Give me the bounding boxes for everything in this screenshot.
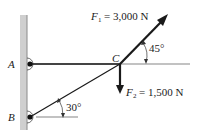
label-angle-45: 45° — [149, 42, 164, 54]
label-angle-30: 30° — [66, 101, 81, 113]
statics-diagram: A B C F 1 = 3,000 N 45° F 2 = 1,500 N 30… — [0, 0, 198, 137]
label-F2-value: = 1,500 N — [139, 86, 183, 98]
label-F2-subscript: 2 — [133, 92, 137, 100]
angle-arc-45 — [141, 40, 148, 64]
label-F1-subscript: 1 — [98, 16, 102, 24]
pin-A — [27, 58, 33, 70]
label-A: A — [7, 58, 15, 70]
label-B: B — [8, 111, 15, 123]
pin-B — [27, 111, 33, 123]
wall — [20, 15, 27, 130]
label-C: C — [112, 52, 120, 64]
label-F1-value: = 3,000 N — [104, 10, 148, 22]
force-F2-arrow — [116, 64, 124, 94]
angle-arc-30 — [57, 98, 65, 118]
label-F2-symbol: F — [125, 86, 133, 98]
label-F1-symbol: F — [90, 10, 98, 22]
